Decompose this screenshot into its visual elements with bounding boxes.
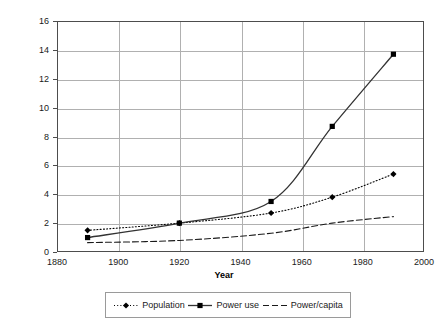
gridline-horizontal — [58, 195, 423, 196]
plot-area — [57, 21, 424, 252]
chart-legend: PopulationPower usePower/capita — [105, 292, 351, 318]
y-axis-tick-label: 6 — [44, 161, 49, 170]
y-axis-tick-label: 4 — [44, 190, 49, 199]
x-axis-tick-label: 2000 — [414, 258, 434, 267]
legend-swatch-solid — [187, 301, 213, 310]
legend-item[interactable]: Power use — [187, 301, 259, 310]
x-axis-tick-label: 1880 — [47, 258, 67, 267]
gridline-vertical — [364, 22, 365, 251]
x-axis-tick-label: 1900 — [108, 258, 128, 267]
gridline-horizontal — [58, 224, 423, 225]
legend-label: Power/capita — [291, 301, 343, 310]
gridline-horizontal — [58, 51, 423, 52]
legend-item[interactable]: Population — [113, 301, 185, 310]
y-axis-tick-label: 14 — [39, 45, 49, 54]
legend-item[interactable]: Power/capita — [262, 301, 343, 310]
gridline-horizontal — [58, 80, 423, 81]
y-axis-tick-label: 16 — [39, 17, 49, 26]
y-axis-tick-label: 2 — [44, 219, 49, 228]
x-axis-title: Year — [0, 270, 448, 280]
legend-label: Power use — [216, 301, 259, 310]
legend-label: Population — [142, 301, 185, 310]
y-axis-tick-label: 8 — [44, 132, 49, 141]
x-axis-tick-label: 1920 — [169, 258, 189, 267]
legend-swatch-dashed — [262, 301, 288, 310]
gridline-vertical — [303, 22, 304, 251]
gridline-vertical — [242, 22, 243, 251]
gridline-horizontal — [58, 109, 423, 110]
y-axis-tick-label: 10 — [39, 103, 49, 112]
x-axis-tick-label: 1940 — [230, 258, 250, 267]
x-axis: 1880190019201940196019802000 — [0, 252, 448, 272]
gridline-vertical — [180, 22, 181, 251]
gridline-horizontal — [58, 138, 423, 139]
y-axis-tick-label: 12 — [39, 74, 49, 83]
gridline-vertical — [119, 22, 120, 251]
x-axis-tick-label: 1980 — [353, 258, 373, 267]
x-axis-tick-label: 1960 — [292, 258, 312, 267]
line-chart: 0246810121416 18801900192019401960198020… — [0, 0, 448, 326]
gridline-horizontal — [58, 166, 423, 167]
legend-swatch-dotted — [113, 301, 139, 310]
